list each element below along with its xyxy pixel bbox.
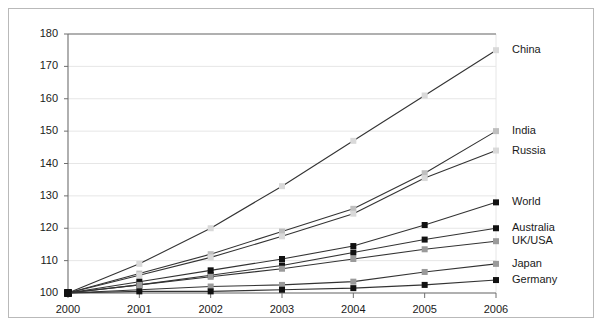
series-marker — [279, 256, 285, 262]
x-axis-tick-label: 2003 — [260, 303, 304, 315]
series-marker — [350, 211, 356, 217]
series-marker — [279, 183, 285, 189]
y-axis-tick-label: 170 — [22, 59, 58, 71]
series-marker — [493, 277, 499, 283]
series-marker — [422, 282, 428, 288]
series-marker — [136, 288, 142, 294]
series-marker — [422, 175, 428, 181]
series-marker — [493, 128, 499, 134]
series-marker — [208, 254, 214, 260]
series-marker — [493, 148, 499, 154]
y-axis-tick-label: 120 — [22, 221, 58, 233]
series-marker — [422, 269, 428, 275]
y-axis-tick-label: 140 — [22, 157, 58, 169]
series-marker — [422, 93, 428, 99]
series-marker — [350, 138, 356, 144]
legend-label-uk-usa: UK/USA — [512, 234, 553, 246]
legend-label-india: India — [512, 124, 536, 136]
legend-label-china: China — [512, 43, 541, 55]
series-marker — [279, 266, 285, 272]
y-axis-tick-label: 150 — [22, 124, 58, 136]
x-axis-tick-label: 2005 — [403, 303, 447, 315]
series-marker — [493, 261, 499, 267]
x-axis-tick-label: 2006 — [474, 303, 518, 315]
legend-label-russia: Russia — [512, 144, 546, 156]
series-marker — [350, 256, 356, 262]
series-marker — [136, 261, 142, 267]
series-marker — [208, 288, 214, 294]
series-marker — [136, 272, 142, 278]
series-marker — [279, 287, 285, 293]
y-axis-tick-label: 180 — [22, 27, 58, 39]
series-marker — [350, 285, 356, 291]
series-marker — [350, 279, 356, 285]
series-marker — [493, 199, 499, 205]
series-line-world — [68, 202, 496, 293]
series-marker — [208, 225, 214, 231]
y-axis-tick-label: 130 — [22, 189, 58, 201]
series-marker — [493, 47, 499, 53]
x-axis-tick-label: 2001 — [117, 303, 161, 315]
series-marker — [350, 243, 356, 249]
series-marker — [493, 225, 499, 231]
series-marker — [493, 238, 499, 244]
y-axis-tick-label: 110 — [22, 254, 58, 266]
y-axis-tick-label: 100 — [22, 286, 58, 298]
series-marker — [350, 250, 356, 256]
chart-screenshot: 100110120130140150160170180 200020012002… — [0, 0, 604, 336]
y-axis-tick-label: 160 — [22, 92, 58, 104]
legend-label-australia: Australia — [512, 221, 555, 233]
legend-label-japan: Japan — [512, 257, 542, 269]
series-marker — [422, 246, 428, 252]
series-marker — [422, 237, 428, 243]
series-origin-marker — [65, 290, 72, 297]
legend-label-world: World — [512, 195, 541, 207]
series-marker — [279, 233, 285, 239]
x-axis-tick-label: 2004 — [331, 303, 375, 315]
series-marker — [422, 222, 428, 228]
x-axis-tick-label: 2000 — [46, 303, 90, 315]
series-marker — [208, 274, 214, 280]
legend-label-germany: Germany — [512, 273, 557, 285]
x-axis-tick-label: 2002 — [189, 303, 233, 315]
